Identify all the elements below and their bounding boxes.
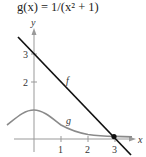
x-axis-label: x xyxy=(137,134,143,145)
y-axis-arrow-icon xyxy=(32,28,37,35)
y-tick-3: 3 xyxy=(23,49,28,60)
y-axis-label: y xyxy=(30,17,36,28)
y-tick-2: 2 xyxy=(23,77,28,88)
x-tick-1: 1 xyxy=(58,144,63,155)
intersection-point xyxy=(111,134,116,139)
f-label: f xyxy=(66,75,70,86)
g-label: g xyxy=(66,115,71,126)
x-tick-2: 2 xyxy=(85,144,90,155)
x-tick-3: 3 xyxy=(112,144,117,155)
plot-area: 1 2 3 2 3 x y f g xyxy=(0,0,146,157)
